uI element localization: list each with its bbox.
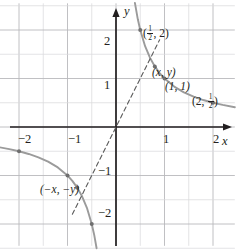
y-tick-label-1: 1 bbox=[104, 79, 110, 92]
y-tick-label-neg1: −1 bbox=[98, 165, 111, 178]
y-tick-label-neg2: −2 bbox=[98, 207, 111, 220]
x-tick-label-2: 2 bbox=[213, 133, 219, 146]
x-tick-label-1: 1 bbox=[163, 133, 169, 146]
point-label-half-two: (12, 2) bbox=[143, 25, 169, 42]
curve-y-1-x-left-branch- bbox=[0, 146, 97, 248]
data-point-neg-one-one bbox=[66, 174, 70, 178]
x-tick-label-neg1: −1 bbox=[68, 133, 81, 146]
x-tick-label-neg2: −2 bbox=[18, 133, 31, 146]
gridlines bbox=[0, 3, 235, 248]
data-point-neg-two-half bbox=[17, 149, 21, 153]
curves bbox=[0, 3, 235, 248]
data-point-neg-half-two bbox=[90, 222, 94, 226]
point-label-two-half: (2, 12) bbox=[192, 93, 218, 110]
figure-canvas: y x −2 −1 1 2 2 1 −1 −2 (12, 2) (x, y) (… bbox=[0, 0, 238, 251]
point-label-xy: (x, y) bbox=[152, 67, 176, 79]
x-axis-arrowhead bbox=[223, 123, 232, 130]
y-axis-label: y bbox=[124, 5, 130, 18]
y-axis-arrowhead bbox=[112, 8, 119, 17]
point-label-neg-xy: (−x, −y) bbox=[40, 184, 79, 196]
point-label-one-one: (1, 1) bbox=[165, 81, 190, 93]
paren-open: (2, bbox=[192, 95, 207, 107]
fraction-one-half: 12 bbox=[208, 93, 214, 110]
paren-rest: , 2) bbox=[153, 27, 168, 39]
x-axis-label: x bbox=[222, 135, 228, 148]
y-tick-label-2: 2 bbox=[104, 35, 110, 48]
graph-plot bbox=[0, 0, 238, 251]
paren-rest: ) bbox=[214, 95, 218, 107]
data-point-half-two bbox=[138, 28, 142, 32]
fraction-denominator: 2 bbox=[208, 102, 214, 110]
